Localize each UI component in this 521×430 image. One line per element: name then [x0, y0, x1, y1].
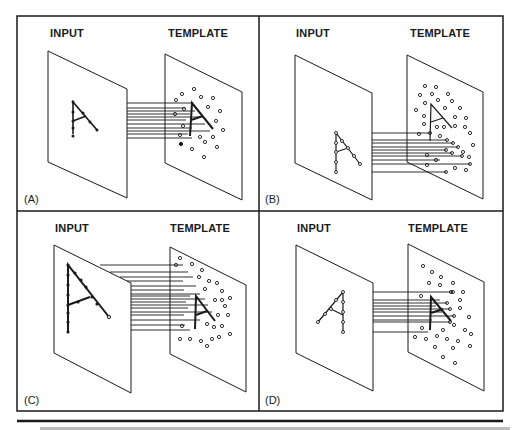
figure-drawing [0, 0, 521, 430]
template-plane [165, 54, 242, 200]
panel-c [54, 245, 246, 393]
template-matching-figure: INPUT TEMPLATE (A) INPUT TEMPLATE (B) IN… [0, 0, 521, 430]
panel-b-input-label: INPUT [296, 27, 330, 39]
panel-a [48, 51, 242, 200]
panel-c-input-label: INPUT [55, 222, 89, 234]
panel-a-input-label: INPUT [50, 27, 84, 39]
panel-d-label: (D) [265, 394, 280, 406]
panel-d-input-label: INPUT [297, 222, 331, 234]
input-plane [295, 55, 372, 200]
panel-c-label: (C) [24, 394, 39, 406]
template-plane [408, 244, 484, 391]
panel-c-template-label: TEMPLATE [170, 222, 230, 234]
panel-b-template-label: TEMPLATE [410, 27, 470, 39]
template-plane [170, 247, 246, 392]
input-plane [54, 245, 131, 393]
panel-b-label: (B) [265, 193, 280, 205]
panel-d-template-label: TEMPLATE [408, 222, 468, 234]
panel-a-template-label: TEMPLATE [168, 27, 228, 39]
input-plane [48, 51, 127, 198]
panel-a-label: (A) [24, 193, 39, 205]
input-plane [296, 245, 373, 391]
panel-d [296, 244, 484, 391]
panel-b [295, 55, 483, 200]
template-plane [407, 55, 483, 199]
